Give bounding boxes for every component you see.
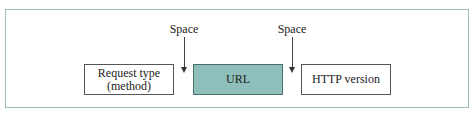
down-arrow-icon [292,37,293,67]
http-version-box: HTTP version [301,64,391,95]
space-label-1: Space [170,22,199,37]
space-label-2: Space [278,22,307,37]
request-type-box: Request type (method) [84,64,174,95]
url-box: URL [193,64,283,95]
http-version-label: HTTP version [312,73,380,86]
request-type-label: Request type [98,67,160,80]
down-arrow-icon [184,37,185,67]
url-label: URL [226,73,250,86]
method-label: (method) [98,80,160,93]
